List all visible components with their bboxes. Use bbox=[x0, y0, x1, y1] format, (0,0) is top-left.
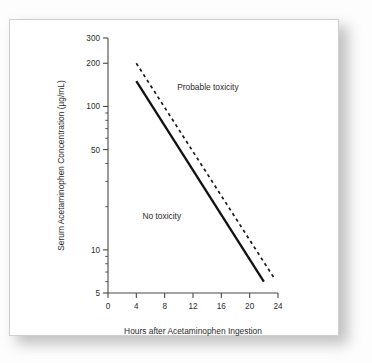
treatment-threshold-line bbox=[136, 81, 263, 281]
probable-toxicity-line bbox=[136, 63, 274, 278]
nomogram-chart: 5105010020030004812162024Probable toxici… bbox=[10, 20, 340, 337]
chart-card: 5105010020030004812162024Probable toxici… bbox=[9, 19, 339, 336]
x-tick-label: 12 bbox=[188, 302, 198, 311]
y-tick-label: 200 bbox=[86, 59, 100, 68]
x-tick-label: 0 bbox=[106, 302, 111, 311]
y-tick-label: 10 bbox=[91, 246, 101, 255]
x-tick-label: 4 bbox=[134, 302, 139, 311]
plot-area: 5105010020030004812162024Probable toxici… bbox=[10, 20, 340, 337]
probable-toxicity-label: Probable toxicity bbox=[177, 82, 239, 92]
x-tick-label: 8 bbox=[162, 302, 167, 311]
figure-root: 5105010020030004812162024Probable toxici… bbox=[0, 0, 372, 363]
x-tick-label: 16 bbox=[217, 302, 227, 311]
y-tick-label: 100 bbox=[86, 102, 100, 111]
y-tick-label: 300 bbox=[86, 34, 100, 43]
y-axis-title: Serum Acetaminophen Concentration (µg/mL… bbox=[56, 80, 66, 251]
no-toxicity-label: No toxicity bbox=[143, 211, 182, 221]
x-tick-label: 24 bbox=[273, 302, 283, 311]
x-axis-title: Hours after Acetaminophen Ingestion bbox=[124, 326, 262, 336]
y-tick-label: 50 bbox=[91, 146, 101, 155]
y-tick-label: 5 bbox=[95, 289, 100, 298]
x-tick-label: 20 bbox=[245, 302, 255, 311]
